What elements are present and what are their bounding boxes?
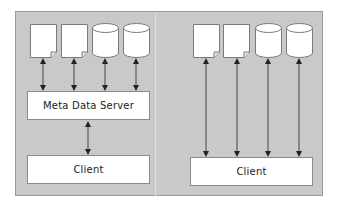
connector-arrows (0, 0, 337, 207)
